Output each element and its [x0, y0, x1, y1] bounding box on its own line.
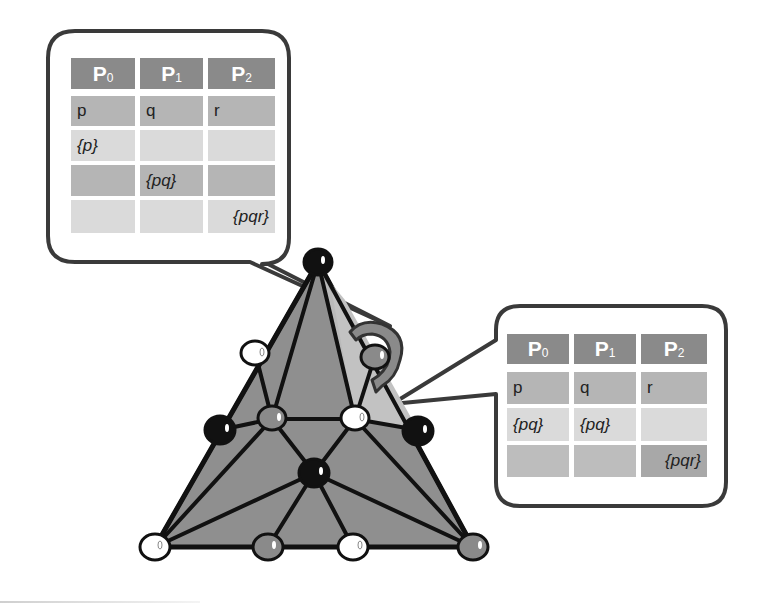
triangle-face [155, 262, 473, 547]
left-cell-r0-c2: r [208, 96, 275, 126]
right-cell-r1-c0: {pq} [507, 408, 569, 441]
right-header-p0: P0 [507, 334, 569, 364]
header-subscript: 2 [245, 71, 252, 85]
vertex-upper-left-white [241, 341, 269, 365]
header-subscript: 2 [678, 346, 685, 360]
header-subscript: 1 [175, 71, 182, 85]
header-label: P [595, 337, 609, 361]
left-header-p2: P2 [208, 58, 275, 89]
triangle-subdivision-diagram [0, 0, 769, 605]
right-header-p2: P2 [641, 334, 707, 364]
header-subscript: 0 [107, 71, 114, 85]
left-header-p0: P0 [71, 58, 135, 89]
right-cell-r2-c1 [574, 445, 636, 477]
bottom-divider [0, 601, 200, 603]
left-cell-r3-c0 [71, 200, 135, 233]
right-cell-r1-c2 [641, 408, 707, 441]
diagram-canvas: P0 P1 P2 p q r {p} {pq} {pqr} P0 P1 [0, 0, 769, 605]
left-cell-r1-c1 [140, 130, 203, 161]
right-cell-r0-c1: q [574, 372, 636, 404]
vertex-mid-left-black [205, 416, 235, 444]
left-cell-r3-c1 [140, 200, 203, 233]
vertex-inner-left-gray [258, 406, 286, 430]
header-subscript: 0 [542, 346, 549, 360]
header-label: P [664, 337, 678, 361]
vertex-bottom-mid-left-gray [253, 534, 283, 560]
vertex-bottom-mid-right-white [338, 534, 368, 560]
vertex-upper-right-gray [361, 345, 389, 369]
vertex-bottom-right-gray [458, 534, 488, 560]
right-cell-r0-c2: r [641, 372, 707, 404]
header-label: P [93, 62, 107, 86]
left-cell-r1-c0: {p} [71, 130, 135, 161]
right-header-p1: P1 [574, 334, 636, 364]
left-header-p1: P1 [140, 58, 203, 89]
vertex-bottom-left-white [140, 534, 170, 560]
left-cell-r3-c2: {pqr} [208, 200, 275, 233]
vertex-center-black [299, 459, 329, 487]
left-cell-r0-c0: p [71, 96, 135, 126]
vertex-mid-right-black [403, 417, 433, 445]
left-cell-r2-c0 [71, 165, 135, 196]
left-cell-r2-c1: {pq} [140, 165, 203, 196]
right-cell-r0-c0: p [507, 372, 569, 404]
left-cell-r1-c2 [208, 130, 275, 161]
header-label: P [161, 62, 175, 86]
vertex-apex-black [304, 249, 332, 275]
vertex-inner-right-white [341, 406, 369, 430]
left-cell-r0-c1: q [140, 96, 203, 126]
right-cell-r1-c1: {pq} [574, 408, 636, 441]
right-cell-r2-c2: {pqr} [641, 445, 707, 477]
header-label: P [231, 62, 245, 86]
header-subscript: 1 [609, 346, 616, 360]
right-cell-r2-c0 [507, 445, 569, 477]
left-cell-r2-c2 [208, 165, 275, 196]
header-label: P [528, 337, 542, 361]
